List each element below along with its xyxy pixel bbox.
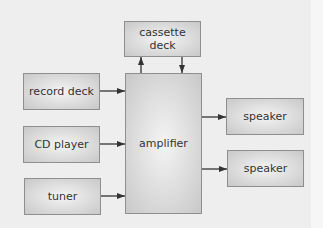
arrows-layer: [0, 0, 323, 228]
